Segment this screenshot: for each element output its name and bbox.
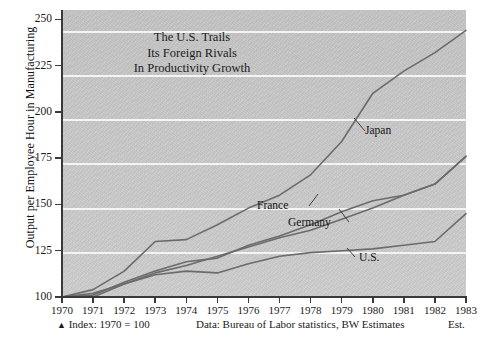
x-tick-label-1974: 1974 [169,305,203,316]
x-tick-label-1982: 1982 [418,305,452,316]
x-tick-1983 [465,297,467,303]
x-tick-label-1977: 1977 [263,305,297,316]
y-tick-175 [55,157,62,159]
x-tick-1976 [248,297,250,303]
data-source-note: Data: Bureau of Labor statistics, BW Est… [196,318,404,330]
y-tick-label-100: 100 [35,291,52,303]
y-tick-125 [55,250,62,252]
x-tick-label-1981: 1981 [387,305,421,316]
estimate-note: Est. [448,318,465,330]
y-tick-label-150: 150 [35,198,52,210]
x-tick-label-1972: 1972 [107,305,141,316]
x-tick-label-1973: 1973 [138,305,172,316]
chart-figure: Output per Employee Hour in Manufacturin… [0,0,481,339]
x-tick-1980 [372,297,374,303]
x-tick-1973 [154,297,156,303]
leader-line-japan [354,118,365,131]
index-note-text: Index: 1970 = 100 [69,318,150,330]
x-tick-1977 [279,297,281,303]
x-tick-1975 [217,297,219,303]
series-line-france [62,156,466,297]
series-line-japan [62,30,466,297]
x-tick-1982 [434,297,436,303]
series-line-germany [62,156,466,297]
leader-line-france [309,194,318,206]
x-tick-1972 [123,297,125,303]
x-tick-label-1980: 1980 [356,305,390,316]
series-label-france: France [257,200,288,212]
x-tick-label-1979: 1979 [325,305,359,316]
x-tick-1971 [92,297,94,303]
y-axis [61,10,63,298]
y-axis-title: Output per Employee Hour in Manufacturin… [23,8,38,268]
series-label-us: U.S. [359,252,379,264]
y-tick-label-250: 250 [35,13,52,25]
x-tick-1978 [310,297,312,303]
x-tick-label-1971: 1971 [76,305,110,316]
x-tick-1981 [403,297,405,303]
chart-footer: ▲ Index: 1970 = 100 Data: Bureau of Labo… [0,318,481,336]
y-tick-200 [55,111,62,113]
x-tick-label-1975: 1975 [200,305,234,316]
y-tick-label-225: 225 [35,60,52,72]
series-lines [62,10,466,297]
x-tick-1974 [186,297,188,303]
series-label-germany: Germany [288,217,331,229]
triangle-icon: ▲ [57,320,66,330]
x-tick-label-1983: 1983 [449,305,481,316]
x-axis [61,296,467,298]
x-tick-1979 [341,297,343,303]
series-label-japan: Japan [365,125,391,137]
x-tick-label-1970: 1970 [45,305,79,316]
y-tick-label-125: 125 [35,245,52,257]
series-line-us [62,214,466,297]
index-note: ▲ Index: 1970 = 100 [57,318,150,330]
y-tick-label-175: 175 [35,152,52,164]
y-tick-150 [55,204,62,206]
x-tick-label-1976: 1976 [231,305,265,316]
y-tick-label-200: 200 [35,106,52,118]
x-tick-1970 [61,297,63,303]
plot-area: The U.S. Trails Its Foreign Rivals In Pr… [62,10,466,297]
y-tick-250 [55,19,62,21]
y-tick-225 [55,65,62,67]
x-tick-label-1978: 1978 [294,305,328,316]
